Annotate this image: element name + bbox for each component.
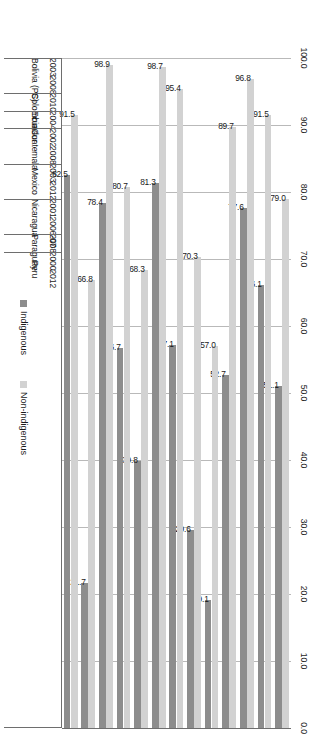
bar-indigenous: 81.3 <box>152 183 159 728</box>
bar-value-label: 98.9 <box>94 61 110 68</box>
category-year-label: 2004 <box>48 111 58 129</box>
category-axis: 2003200820102004200220082003201220012006… <box>0 58 62 728</box>
category-country-label: Ecuador <box>30 111 40 129</box>
bar-non-indigenous: 70.3 <box>194 257 201 728</box>
category-year-label: 2012 <box>48 181 58 199</box>
category-year-label: 2008 <box>48 146 58 164</box>
bar-value-label: 57.0 <box>200 342 216 349</box>
value-axis-tick-labels: 100.090.080.070.060.050.040.030.020.010.… <box>293 58 311 728</box>
bar-non-indigenous: 98.9 <box>106 65 113 728</box>
bar-value-label: 79.0 <box>271 194 287 201</box>
category-country-label: Guatemala <box>30 128 40 163</box>
axis-tick-label: 0.0 <box>299 722 309 734</box>
bar-series-container: 79.051.191.566.196.877.689.752.757.019.1… <box>62 58 291 728</box>
bar-indigenous: 51.1 <box>275 386 282 728</box>
category-year-label: 2008 <box>48 234 58 252</box>
category-country-label: Colombia <box>30 93 40 111</box>
legend-swatch-indigenous <box>21 300 28 307</box>
legend-item-non-indigenous: Non-indigenous <box>19 381 29 455</box>
bar-indigenous: 56.7 <box>117 348 124 728</box>
legend-swatch-non-indigenous <box>21 381 28 388</box>
bar-non-indigenous: 89.7 <box>229 127 236 728</box>
bar-non-indigenous: 91.5 <box>71 115 78 728</box>
bar-non-indigenous: 68.3 <box>141 270 148 728</box>
category-year-label: 2012 <box>48 269 58 287</box>
bar-indigenous: 29.6 <box>187 530 194 728</box>
group-separator <box>4 199 62 200</box>
bar-non-indigenous: 96.8 <box>247 79 254 728</box>
bar-value-label: 70.3 <box>182 253 198 260</box>
bar-value-label: 81.3 <box>140 179 156 186</box>
group-separator <box>4 234 62 235</box>
bar-non-indigenous: 98.7 <box>159 67 166 728</box>
axis-tick-label: 30.0 <box>299 519 309 535</box>
bar-non-indigenous: 80.7 <box>124 187 131 728</box>
axis-tick-label: 90.0 <box>299 117 309 133</box>
gridline-0 <box>62 728 291 729</box>
category-year-label: 2000 <box>48 252 58 270</box>
category-country-label: Nicaragua <box>30 199 40 234</box>
category-axis-end <box>4 727 62 728</box>
legend-item-indigenous: Indigenous <box>19 300 29 355</box>
axis-tick-label: 60.0 <box>299 318 309 334</box>
legend-label-indigenous: Indigenous <box>19 311 29 355</box>
group-separator <box>4 252 62 253</box>
axis-tick-label: 10.0 <box>299 653 309 669</box>
bar-indigenous: 21.7 <box>81 583 88 728</box>
axis-tick-label: 40.0 <box>299 452 309 468</box>
category-year-label: 2006-07 <box>48 217 58 235</box>
axis-tick-label: 20.0 <box>299 586 309 602</box>
bar-non-indigenous: 95.4 <box>177 89 184 728</box>
bar-value-label: 78.4 <box>87 198 103 205</box>
category-year-label: 2001 <box>48 199 58 217</box>
bar-indigenous: 77.6 <box>240 208 247 728</box>
bar-non-indigenous: 91.5 <box>265 115 272 728</box>
group-separator <box>4 128 62 129</box>
category-country-label: Peru <box>30 252 40 287</box>
bar-value-label: 91.5 <box>253 111 269 118</box>
category-country-label: Mexico <box>30 164 40 199</box>
plot-area: 79.051.191.566.196.877.689.752.757.019.1… <box>62 58 291 728</box>
group-separator <box>4 111 62 112</box>
axis-tick-label: 80.0 <box>299 184 309 200</box>
category-axis-end <box>4 58 62 59</box>
chart-stage: 100.090.080.070.060.050.040.030.020.010.… <box>0 0 311 746</box>
axis-tick-label: 50.0 <box>299 385 309 401</box>
bar-value-label: 89.7 <box>218 123 234 130</box>
bar-non-indigenous: 57.0 <box>212 346 219 728</box>
category-country-label: Paraguay <box>30 234 40 252</box>
category-year-label: 2002 <box>48 128 58 146</box>
bar-indigenous: 52.7 <box>222 375 229 728</box>
bar-indigenous: 57.1 <box>169 345 176 728</box>
bar-indigenous: 78.4 <box>99 203 106 728</box>
group-separator <box>4 164 62 165</box>
bar-indigenous: 66.1 <box>258 285 265 728</box>
bar-value-label: 68.3 <box>130 266 146 273</box>
bar-value-label: 95.4 <box>165 84 181 91</box>
bar-indigenous: 39.8 <box>134 461 141 728</box>
category-year-label: 2010 <box>48 93 58 111</box>
bar-value-label: 96.8 <box>235 75 251 82</box>
bar-non-indigenous: 79.0 <box>282 199 289 728</box>
bar-indigenous: 82.5 <box>64 175 71 728</box>
bar-value-label: 98.7 <box>147 62 163 69</box>
axis-tick-label: 100.0 <box>299 47 309 68</box>
bar-non-indigenous: 66.8 <box>88 280 95 728</box>
category-year-label: 2003 <box>48 58 58 76</box>
category-year-label: 2008 <box>48 76 58 94</box>
legend-label-non-indigenous: Non-indigenous <box>19 392 29 455</box>
bar-indigenous: 19.1 <box>205 600 212 728</box>
bar-value-label: 66.8 <box>77 276 93 283</box>
axis-tick-label: 70.0 <box>299 251 309 267</box>
group-separator <box>4 93 62 94</box>
category-year-label: 2003 <box>48 164 58 182</box>
category-country-label: Bolivia (PS) <box>30 58 40 93</box>
chart-legend: Indigenous Non-indigenous <box>19 300 29 455</box>
bar-value-label: 80.7 <box>112 183 128 190</box>
